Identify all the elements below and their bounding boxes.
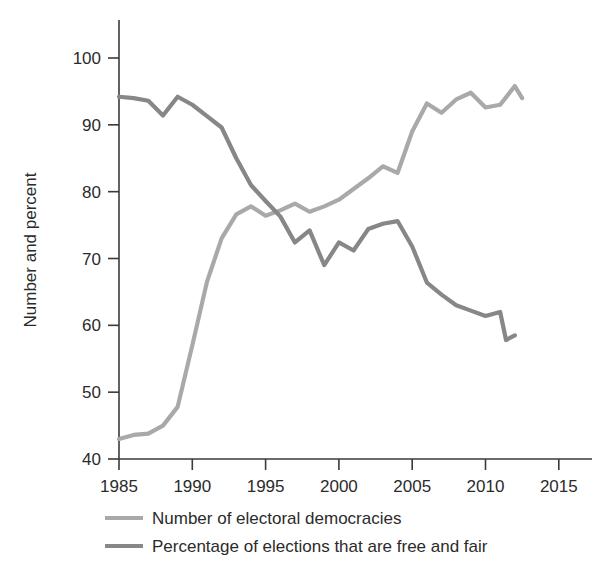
x-tick-label-1985: 1985	[100, 477, 138, 496]
y-tick-label-90: 90	[82, 116, 101, 135]
x-axis-ticks: 1985199019952000200520102015	[100, 459, 578, 496]
legend-label-1: Number of electoral democracies	[152, 509, 401, 528]
series-lines	[119, 86, 522, 439]
y-tick-label-80: 80	[82, 183, 101, 202]
y-tick-label-70: 70	[82, 250, 101, 269]
x-tick-label-2010: 2010	[467, 477, 505, 496]
chart-legend: Number of electoral democraciesPercentag…	[105, 509, 488, 556]
x-tick-label-2015: 2015	[540, 477, 578, 496]
y-tick-label-50: 50	[82, 383, 101, 402]
series-line-number-of-electoral-democracies	[119, 86, 522, 439]
x-tick-label-2005: 2005	[393, 477, 431, 496]
y-tick-label-60: 60	[82, 316, 101, 335]
series-line-percentage-free-and-fair	[119, 97, 515, 340]
y-axis-ticks: 405060708090100	[73, 49, 119, 469]
x-tick-label-2000: 2000	[320, 477, 358, 496]
legend-label-2: Percentage of elections that are free an…	[152, 537, 488, 556]
y-axis-title: Number and percent	[21, 172, 40, 327]
x-tick-label-1995: 1995	[247, 477, 285, 496]
y-tick-label-40: 40	[82, 450, 101, 469]
x-tick-label-1990: 1990	[173, 477, 211, 496]
chart-figure: 405060708090100 198519901995200020052010…	[0, 0, 607, 580]
y-tick-label-100: 100	[73, 49, 101, 68]
line-chart: 405060708090100 198519901995200020052010…	[0, 0, 607, 580]
